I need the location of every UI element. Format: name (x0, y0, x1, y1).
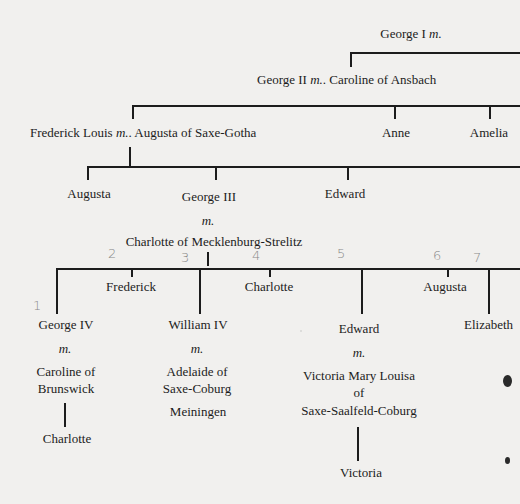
person-edward: Edward (339, 321, 379, 337)
connector-augusta-drop (447, 268, 449, 277)
connector-charlotte-drop (269, 268, 271, 277)
connector-amelia-drop (489, 105, 491, 119)
annotation-2: 2 (108, 246, 116, 261)
person-caroline-brunswick-line2: Brunswick (38, 381, 94, 397)
person-frederick-louis: Frederick Louis m.. Augusta of Saxe-Goth… (30, 125, 256, 141)
connector-gen5 (56, 268, 520, 270)
person-augusta: Augusta (67, 186, 110, 202)
connector-frederick-louis-drop (132, 105, 134, 119)
connector-edward-drop (347, 166, 349, 180)
person-victoria-mary-louisa-line1: Victoria Mary Louisa (303, 368, 415, 384)
person-elizabeth: Elizabeth (464, 317, 513, 333)
connector-george-iii-children (207, 252, 209, 266)
person-charlotte: Charlotte (245, 279, 293, 295)
person-george-iv: George IV (39, 317, 94, 333)
person-george-iii: George III (182, 189, 236, 205)
person-george-i: George I m. (380, 26, 442, 42)
connector-george-iv-drop (56, 268, 58, 314)
ink-blot (503, 375, 512, 387)
connector-augusta-drop (87, 166, 89, 180)
person-augusta: Augusta (423, 279, 466, 295)
person-adelaide-line3: Meiningen (170, 404, 226, 420)
connector-george-i (350, 52, 520, 54)
person-caroline-brunswick-line1: Caroline of (37, 364, 96, 380)
connector-william-iv-drop (199, 268, 201, 314)
annotation-5: 5 (337, 246, 345, 261)
marriage-marker: m. (191, 341, 204, 357)
connector-george-ii-children (132, 105, 520, 107)
connector-frederick-louis-children (129, 147, 131, 167)
annotation-3: 3 (181, 250, 189, 265)
marriage-marker: m. (353, 345, 366, 361)
person-victoria-mary-louisa-line3: Saxe-Saalfeld-Coburg (301, 403, 416, 419)
connector-charlotte-child (64, 403, 66, 427)
connector-george-ii-drop (350, 52, 352, 67)
person-charlotte-mecklenburg: Charlotte of Mecklenburg-Strelitz (126, 234, 303, 250)
connector-victoria-child (357, 427, 359, 461)
annotation-4: 4 (252, 248, 260, 263)
person-william-iv: William IV (168, 317, 227, 333)
marriage-marker: m. (59, 341, 72, 357)
person-adelaide-line1: Adelaide of (166, 364, 227, 380)
person-amelia: Amelia (470, 125, 508, 141)
ink-blot (505, 457, 510, 464)
connector-elizabeth-drop (488, 268, 490, 314)
annotation-6: 6 (433, 248, 441, 263)
person-victoria: Victoria (340, 465, 382, 481)
annotation-7: 7 (473, 250, 481, 265)
person-frederick: Frederick (106, 279, 156, 295)
person-charlotte-child: Charlotte (43, 431, 91, 447)
annotation-1: 1 (33, 298, 41, 313)
person-edward: Edward (325, 186, 365, 202)
person-george-ii: George II m.. Caroline of Ansbach (257, 72, 436, 88)
connector-gen4 (87, 166, 520, 168)
marriage-marker: m. (202, 213, 215, 229)
connector-frederick-drop (131, 268, 133, 277)
connector-george-iii-drop (215, 166, 217, 180)
connector-edward-drop (361, 268, 363, 314)
paper-speck (300, 330, 302, 332)
person-victoria-mary-louisa-line2: of (354, 385, 365, 401)
person-adelaide-line2: Saxe-Coburg (163, 381, 231, 397)
connector-anne-drop (394, 105, 396, 119)
person-anne: Anne (382, 125, 410, 141)
